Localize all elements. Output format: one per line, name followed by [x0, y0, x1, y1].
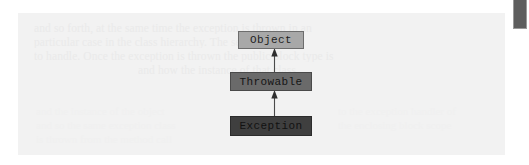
uml-node-label: Object [250, 34, 292, 46]
vertical-scrollbar-thumb[interactable] [513, 0, 527, 29]
inheritance-arrow-exception-to-throwable [270, 90, 279, 117]
uml-node-object[interactable]: Object [238, 31, 304, 49]
uml-node-label: Exception [239, 120, 302, 132]
content-panel: and so forth, at the same time the excep… [18, 13, 505, 155]
uml-inheritance-diagram: Object Throwable Exception [18, 13, 505, 155]
page-root: and so forth, at the same time the excep… [0, 0, 529, 165]
inheritance-arrow-throwable-to-object [270, 48, 279, 73]
uml-node-exception[interactable]: Exception [230, 116, 312, 136]
uml-node-label: Throwable [239, 76, 302, 88]
uml-node-throwable[interactable]: Throwable [230, 72, 312, 91]
